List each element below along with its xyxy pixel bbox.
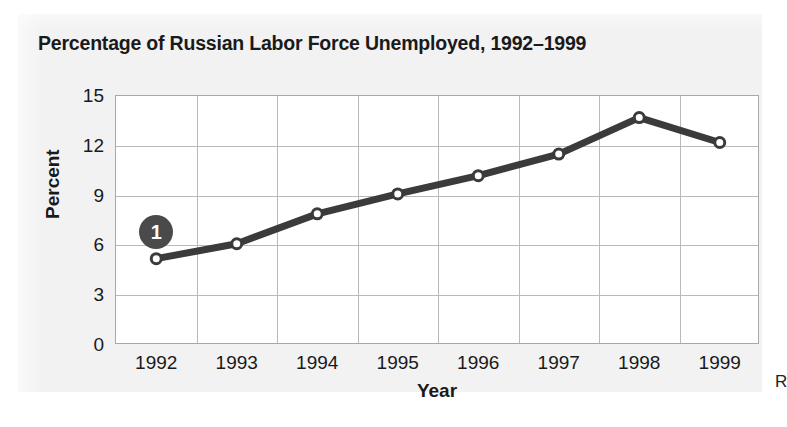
- y-tick-label-9: 9: [93, 185, 104, 207]
- figure-panel: Percentage of Russian Labor Force Unempl…: [18, 14, 762, 392]
- y-axis-title: Percent: [42, 149, 64, 219]
- chart-title: Percentage of Russian Labor Force Unempl…: [38, 32, 586, 55]
- y-tick-label-3: 3: [93, 284, 104, 306]
- y-tick-label-15: 15: [83, 85, 104, 107]
- x-tick-label-1993: 1993: [216, 352, 258, 374]
- data-point-1997: [554, 149, 564, 159]
- data-point-1994: [312, 209, 322, 219]
- x-tick-label-1996: 1996: [457, 352, 499, 374]
- series-line: [156, 118, 720, 259]
- x-axis-title: Year: [115, 380, 759, 402]
- line-series: [116, 96, 760, 345]
- annotation-badge-1: 1: [139, 215, 173, 249]
- data-point-1996: [473, 171, 483, 181]
- x-tick-label-1992: 1992: [135, 352, 177, 374]
- data-point-1999: [715, 137, 725, 147]
- data-point-1995: [393, 189, 403, 199]
- data-point-1992: [151, 254, 161, 264]
- y-tick-label-0: 0: [93, 334, 104, 356]
- data-point-1998: [634, 113, 644, 123]
- x-tick-label-1998: 1998: [618, 352, 660, 374]
- x-tick-label-1999: 1999: [699, 352, 741, 374]
- data-point-1993: [232, 239, 242, 249]
- x-tick-label-1997: 1997: [538, 352, 580, 374]
- margin-letter: R: [775, 372, 787, 392]
- y-tick-label-12: 12: [83, 135, 104, 157]
- x-tick-label-1994: 1994: [296, 352, 338, 374]
- x-tick-label-1995: 1995: [377, 352, 419, 374]
- plot-area: 03691215 1992199319941995199619971998199…: [115, 95, 759, 344]
- y-tick-label-6: 6: [93, 234, 104, 256]
